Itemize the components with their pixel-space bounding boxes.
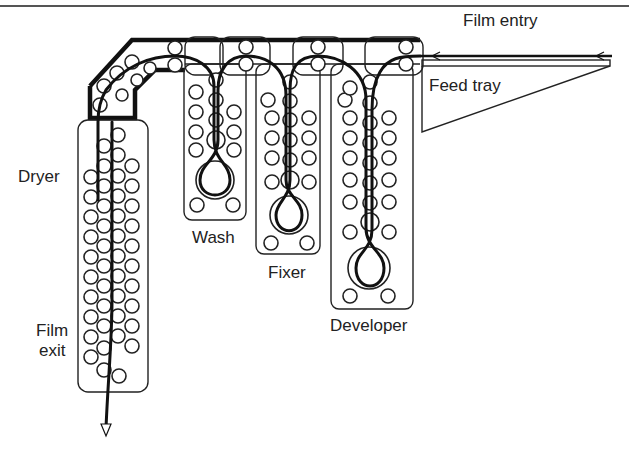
label-film-exit-line1: Film bbox=[36, 321, 68, 340]
label-fixer: Fixer bbox=[268, 263, 306, 282]
top-racks bbox=[185, 37, 423, 75]
label-developer: Developer bbox=[330, 316, 408, 335]
processor-diagram bbox=[0, 0, 629, 452]
label-dryer: Dryer bbox=[18, 167, 60, 186]
label-film-entry: Film entry bbox=[463, 11, 538, 30]
label-wash: Wash bbox=[192, 228, 235, 247]
feed-tray bbox=[422, 60, 610, 132]
label-feed-tray: Feed tray bbox=[429, 76, 501, 95]
film-entry-line bbox=[420, 52, 612, 60]
film-path bbox=[98, 56, 420, 436]
label-film-exit-line2: exit bbox=[39, 341, 65, 360]
